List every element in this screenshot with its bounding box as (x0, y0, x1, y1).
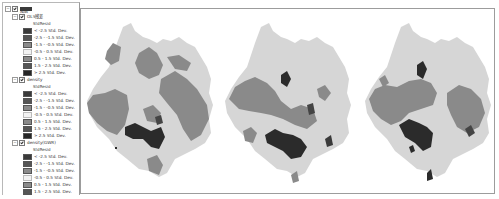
legend-swatch (23, 70, 32, 76)
legend-label: -0.5 - 0.5 Std. Dev. (34, 175, 73, 180)
legend-swatch (23, 126, 32, 132)
legend-swatch (23, 105, 32, 111)
legend-class: -0.5 - 0.5 Std. Dev. (23, 48, 73, 55)
legend-label: 0.5 - 1.5 Std. Dev. (34, 119, 72, 124)
legend-swatch (23, 56, 32, 62)
collapse-icon[interactable]: − (12, 14, 18, 20)
legend-swatch (23, 63, 32, 69)
legend-class: 0.5 - 1.5 Std. Dev. (23, 118, 72, 125)
collapse-icon[interactable]: − (5, 6, 11, 12)
legend-class: -2.5 - -1.5 Std. Dev. (23, 97, 75, 104)
legend-class: -1.5 - -0.5 Std. Dev. (23, 41, 75, 48)
legend-label: -1.5 - -0.5 Std. Dev. (34, 42, 75, 47)
collapse-icon[interactable]: − (12, 140, 18, 146)
root-checkbox[interactable] (12, 6, 18, 12)
legend-swatch (23, 182, 32, 188)
field-label: StdResid (33, 146, 50, 153)
legend-swatch (23, 49, 32, 55)
legend-class: < -2.5 Std. Dev. (23, 90, 67, 97)
legend-label: > 2.5 Std. Dev. (34, 70, 66, 75)
legend-swatch (23, 175, 32, 181)
layer-name: OLS残差 (27, 14, 43, 19)
legend-label: -0.5 - 0.5 Std. Dev. (34, 112, 73, 117)
layer-name: density(GWR) (27, 140, 56, 145)
legend-label: < -2.5 Std. Dev. (34, 154, 67, 159)
legend-swatch (23, 168, 32, 174)
field-label: StdResid (33, 20, 50, 27)
legend-label: -2.5 - -1.5 Std. Dev. (34, 98, 75, 103)
legend-swatch (23, 161, 32, 167)
legend-label: -1.5 - -0.5 Std. Dev. (34, 105, 75, 110)
layer-density-gwr[interactable]: −density(GWR) (12, 139, 56, 146)
layer-name: density (27, 77, 42, 82)
legend-swatch (23, 189, 32, 195)
legend-class: 1.5 - 2.5 Std. Dev. (23, 188, 72, 195)
legend-swatch (23, 98, 32, 104)
legend-label: 1.5 - 2.5 Std. Dev. (34, 63, 72, 68)
map-density[interactable] (221, 9, 356, 193)
toc-root[interactable]: −图层 (5, 5, 32, 12)
legend-swatch (23, 42, 32, 48)
legend-class: -1.5 - -0.5 Std. Dev. (23, 167, 75, 174)
legend-swatch (23, 119, 32, 125)
legend-swatch (23, 91, 32, 97)
legend-swatch (23, 133, 32, 139)
layer-checkbox[interactable] (19, 77, 25, 83)
legend-class: 1.5 - 2.5 Std. Dev. (23, 62, 72, 69)
root-label: 图层 (20, 7, 32, 11)
legend-swatch (23, 154, 32, 160)
collapse-icon[interactable]: − (12, 77, 18, 83)
legend-class: 0.5 - 1.5 Std. Dev. (23, 181, 72, 188)
region-dark (115, 147, 117, 149)
field-label: StdResid (33, 83, 50, 90)
legend-class: 0.5 - 1.5 Std. Dev. (23, 55, 72, 62)
legend-class: > 2.5 Std. Dev. (23, 132, 66, 139)
legend-label: 0.5 - 1.5 Std. Dev. (34, 56, 72, 61)
legend-class: -1.5 - -0.5 Std. Dev. (23, 104, 75, 111)
legend-class: < -2.5 Std. Dev. (23, 153, 67, 160)
legend-swatch (23, 35, 32, 41)
legend-label: 1.5 - 2.5 Std. Dev. (34, 126, 72, 131)
legend-label: 0.5 - 1.5 Std. Dev. (34, 182, 72, 187)
legend-label: < -2.5 Std. Dev. (34, 91, 67, 96)
legend-class: 1.5 - 2.5 Std. Dev. (23, 125, 72, 132)
legend-label: -1.5 - -0.5 Std. Dev. (34, 168, 75, 173)
legend-class: -2.5 - -1.5 Std. Dev. (23, 160, 75, 167)
map-ols-residuals[interactable] (83, 9, 218, 193)
map-view[interactable] (80, 8, 495, 194)
legend-label: 1.5 - 2.5 Std. Dev. (34, 189, 72, 194)
layer-ols-residuals[interactable]: −OLS残差 (12, 13, 43, 20)
map-density-gwr[interactable] (361, 9, 494, 193)
legend-swatch (23, 28, 32, 34)
legend-label: -0.5 - 0.5 Std. Dev. (34, 49, 73, 54)
legend-class: -2.5 - -1.5 Std. Dev. (23, 34, 75, 41)
legend-label: -2.5 - -1.5 Std. Dev. (34, 35, 75, 40)
legend-label: < -2.5 Std. Dev. (34, 28, 67, 33)
legend-swatch (23, 112, 32, 118)
legend-class: < -2.5 Std. Dev. (23, 27, 67, 34)
layer-checkbox[interactable] (19, 140, 25, 146)
legend-label: > 2.5 Std. Dev. (34, 133, 66, 138)
legend-label: -2.5 - -1.5 Std. Dev. (34, 161, 75, 166)
layer-checkbox[interactable] (19, 14, 25, 20)
legend-class: > 2.5 Std. Dev. (23, 69, 66, 76)
legend-class: -0.5 - 0.5 Std. Dev. (23, 111, 73, 118)
legend-class: -0.5 - 0.5 Std. Dev. (23, 174, 73, 181)
layer-density[interactable]: −density (12, 76, 42, 83)
table-of-contents: −图层 −OLS残差 StdResid < -2.5 Std. Dev. -2.… (2, 2, 80, 195)
